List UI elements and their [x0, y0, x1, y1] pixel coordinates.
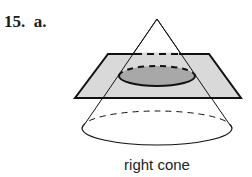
cone-plane-diagram [0, 0, 252, 177]
base-ellipse-visible [82, 128, 232, 145]
base-ellipse-hidden [82, 111, 232, 128]
figure-caption: right cone [0, 156, 252, 173]
